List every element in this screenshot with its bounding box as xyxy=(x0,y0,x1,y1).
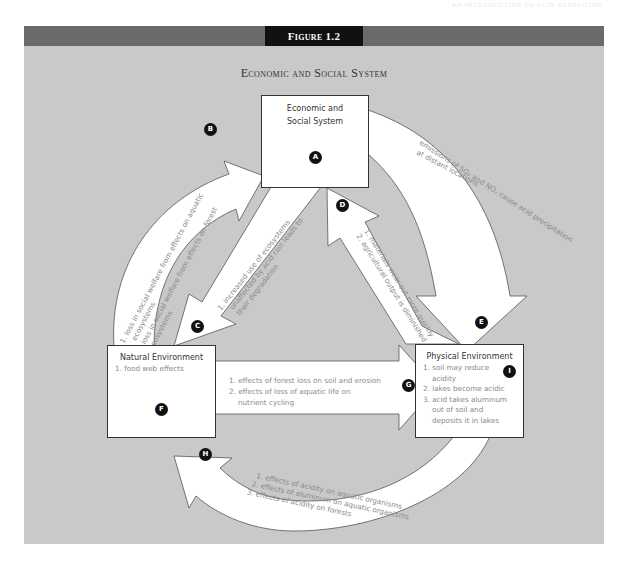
node-physical-item: 3. acid takes aluminum out of soil and d… xyxy=(423,395,509,427)
node-economic-title-line2: Social System xyxy=(262,115,368,128)
badge-c: C xyxy=(191,320,204,333)
figure-panel: Figure 1.2 Economic and Social System em… xyxy=(24,26,604,544)
badge-f: F xyxy=(155,403,168,416)
badge-b: B xyxy=(204,123,217,136)
badge-a: A xyxy=(309,151,322,164)
node-natural-item: 1. food web effects xyxy=(115,364,215,375)
arrow-h xyxy=(174,436,490,531)
node-economic-social-system: Economic and Social System A xyxy=(261,95,369,188)
svg-text:2. effects of loss of aquatic: 2. effects of loss of aquatic life on xyxy=(229,387,351,396)
svg-text:2. agricultural output is dimi: 2. agricultural output is diminished xyxy=(355,232,429,344)
badge-g: G xyxy=(402,379,415,392)
node-physical-environment: Physical Environment 1. soil may reduce … xyxy=(415,344,524,438)
node-natural-environment: Natural Environment 1. food web effects … xyxy=(107,345,216,438)
badge-e: E xyxy=(475,316,488,329)
running-header: AN INTRODUCTION TO ACID DEPOSITION xyxy=(452,2,603,8)
node-economic-title-line1: Economic and xyxy=(262,102,368,115)
badge-h: H xyxy=(199,448,212,461)
node-natural-title: Natural Environment xyxy=(108,351,215,364)
node-physical-item: 2. lakes become acidic xyxy=(423,384,509,395)
badge-i: I xyxy=(503,365,516,378)
node-physical-item: 1. soil may reduce acidity xyxy=(423,363,509,384)
badge-d: D xyxy=(336,199,349,212)
svg-text:nutrient cycling: nutrient cycling xyxy=(238,398,294,407)
svg-text:1. effects of forest loss on s: 1. effects of forest loss on soil and er… xyxy=(229,376,381,385)
node-physical-title: Physical Environment xyxy=(416,350,523,363)
